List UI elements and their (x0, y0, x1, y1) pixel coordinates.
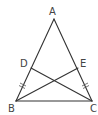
triangle-diagram: A B C D E (0, 0, 98, 115)
label-e: E (80, 58, 86, 69)
label-a: A (49, 6, 56, 17)
label-d: D (20, 58, 28, 69)
segment-eb (16, 68, 78, 101)
segment-dc (31, 68, 92, 101)
label-c: C (90, 103, 97, 114)
label-b: B (8, 103, 15, 114)
